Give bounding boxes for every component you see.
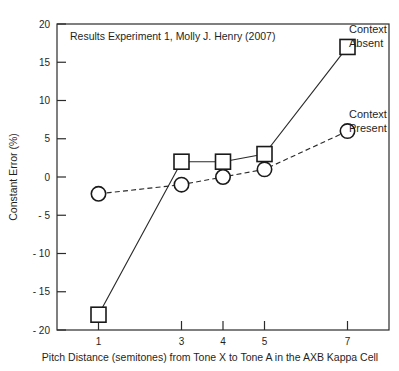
- x-axis-ticks: 13457: [96, 321, 351, 347]
- y-tick-label: 0: [44, 172, 50, 183]
- data-point-circle: [257, 162, 271, 176]
- constant-error-line-chart: 20151050- 5- 10- 15- 20 13457 Constant E…: [0, 0, 399, 371]
- y-tick-label: - 20: [33, 325, 51, 336]
- series-layer: [91, 39, 355, 322]
- x-axis-title: Pitch Distance (semitones) from Tone X t…: [42, 351, 378, 363]
- data-point-circle: [174, 177, 188, 191]
- legend-item: ContextAbsent: [349, 23, 387, 49]
- y-tick-label: - 15: [33, 286, 51, 297]
- legend-item: ContextPresent: [349, 108, 387, 134]
- data-point-circle: [216, 170, 230, 184]
- legend-label-line2: Absent: [349, 37, 383, 49]
- legend-label-line2: Present: [349, 122, 387, 134]
- chart-figure: 20151050- 5- 10- 15- 20 13457 Constant E…: [0, 0, 399, 371]
- chart-legend: ContextAbsentContextPresent: [349, 23, 387, 134]
- y-axis-title: Constant Error (%): [7, 133, 19, 221]
- x-tick-label: 7: [345, 336, 351, 347]
- chart-title-annotation: Results Experiment 1, Molly J. Henry (20…: [70, 30, 275, 42]
- y-tick-label: - 5: [38, 210, 50, 221]
- y-tick-label: - 10: [33, 248, 51, 259]
- x-tick-label: 3: [179, 336, 185, 347]
- y-tick-label: 10: [39, 95, 51, 106]
- legend-label-line1: Context: [349, 23, 387, 35]
- y-tick-label: 15: [39, 57, 51, 68]
- y-axis-ticks: 20151050- 5- 10- 15- 20: [33, 19, 66, 336]
- legend-label-line1: Context: [349, 108, 387, 120]
- data-point-square: [91, 307, 106, 322]
- x-tick-label: 4: [220, 336, 226, 347]
- data-point-square: [216, 154, 231, 169]
- y-tick-label: 20: [39, 19, 51, 30]
- x-tick-label: 5: [262, 336, 268, 347]
- data-point-square: [174, 154, 189, 169]
- data-point-circle: [91, 187, 105, 201]
- y-tick-label: 5: [44, 133, 50, 144]
- data-point-square: [257, 147, 272, 162]
- x-tick-label: 1: [96, 336, 102, 347]
